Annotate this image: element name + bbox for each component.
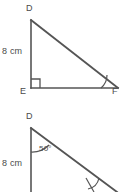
triangle-def-bottom-drawing bbox=[0, 104, 124, 192]
angle-measure-label-d: 50° bbox=[39, 145, 52, 153]
figure-triangle-def-top: D E F 8 cm bbox=[0, 0, 124, 100]
vertex-label-e: E bbox=[20, 87, 26, 96]
figure-triangle-def-bottom: D 50° 8 cm bbox=[0, 104, 124, 192]
side-length-label-de: 8 cm bbox=[2, 47, 22, 56]
segment-df bbox=[31, 20, 118, 88]
side-length-label-de: 8 cm bbox=[2, 159, 22, 168]
segment-partial-mark bbox=[86, 178, 94, 192]
right-angle-marker-e bbox=[31, 79, 40, 88]
vertex-label-f: F bbox=[112, 87, 118, 96]
segment-df bbox=[31, 128, 117, 192]
vertex-label-d: D bbox=[26, 4, 33, 13]
vertex-label-d: D bbox=[26, 112, 33, 121]
geometry-diagram-page: D E F 8 cm D 50° 8 cm bbox=[0, 0, 124, 192]
